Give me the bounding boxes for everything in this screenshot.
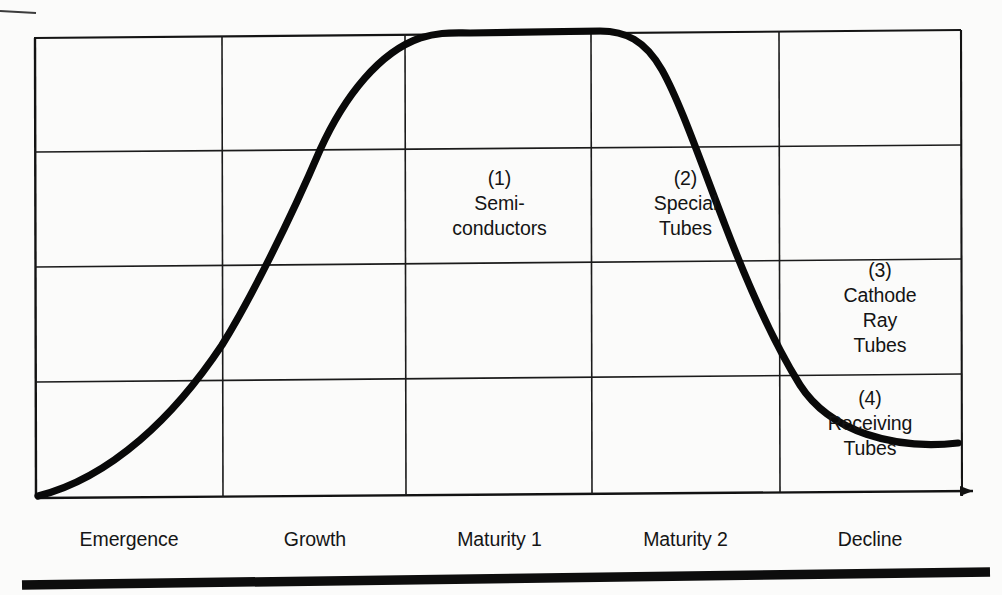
annotation-special-tubes: (2) Special Tubes — [591, 166, 780, 241]
annotation-3-line2: Ray — [800, 308, 960, 333]
annotation-1-line2: conductors — [408, 216, 591, 241]
x-axis-label-decline: Decline — [780, 528, 960, 551]
x-axis-label-maturity-1: Maturity 1 — [408, 528, 591, 551]
annotation-3-index: (3) — [800, 258, 960, 283]
annotation-semiconductors: (1) Semi- conductors — [408, 166, 591, 241]
x-axis-label-emergence: Emergence — [36, 528, 222, 551]
annotation-4-line1: Receiving — [780, 411, 960, 436]
annotation-1-line1: Semi- — [408, 191, 591, 216]
gridline-horizontal-1 — [35, 145, 961, 152]
product-life-cycle-figure: (1) Semi- conductors (2) Special Tubes (… — [0, 0, 1002, 595]
x-axis-label-growth: Growth — [222, 528, 408, 551]
gridline-vertical-3 — [591, 33, 592, 494]
annotation-2-line2: Tubes — [591, 216, 780, 241]
annotation-4-line2: Tubes — [780, 436, 960, 461]
gridline-vertical-1 — [222, 36, 223, 497]
plot-frame-right — [961, 30, 962, 496]
y-axis — [35, 38, 36, 498]
annotation-3-line3: Tubes — [800, 333, 960, 358]
annotation-4-index: (4) — [780, 386, 960, 411]
x-axis-label-maturity-2: Maturity 2 — [591, 528, 780, 551]
x-axis — [36, 491, 973, 498]
annotation-1-index: (1) — [408, 166, 591, 191]
page-top-dash-mark — [0, 11, 36, 13]
bottom-thick-rule — [22, 572, 990, 585]
gridline-vertical-2 — [405, 34, 406, 495]
annotation-2-line1: Special — [591, 191, 780, 216]
annotation-2-index: (2) — [591, 166, 780, 191]
gridline-horizontal-3 — [36, 374, 962, 382]
annotation-cathode-ray-tubes: (3) Cathode Ray Tubes — [800, 258, 960, 358]
annotation-receiving-tubes: (4) Receiving Tubes — [780, 386, 960, 461]
x-axis-arrowhead — [960, 486, 973, 496]
annotation-3-line1: Cathode — [800, 283, 960, 308]
